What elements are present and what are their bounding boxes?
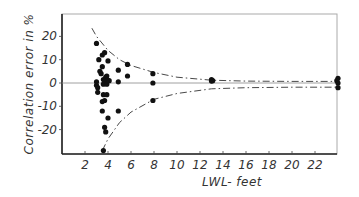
data-point [94, 41, 99, 46]
y-axis-ticks: 20100-10-20 [37, 29, 62, 136]
data-point [116, 79, 121, 84]
data-point [100, 64, 105, 69]
x-tick-label: 4 [104, 158, 112, 172]
y-tick-label: 10 [42, 53, 58, 67]
y-axis-title: Correlation error in % [22, 14, 36, 155]
data-points [94, 41, 341, 153]
y-tick-label: -20 [37, 123, 57, 137]
data-point [96, 57, 101, 62]
data-point [335, 85, 340, 90]
data-point [94, 79, 99, 84]
data-point [100, 108, 105, 113]
data-point [105, 58, 110, 63]
data-point [125, 62, 130, 67]
data-point [150, 71, 155, 76]
x-tick-label: 10 [169, 158, 185, 172]
data-point [104, 92, 109, 97]
data-point [103, 129, 108, 134]
x-tick-label: 22 [307, 158, 322, 172]
error-envelope-curves [92, 28, 338, 150]
data-point [102, 50, 107, 55]
y-tick-label: 20 [42, 29, 58, 43]
y-tick-label: -10 [37, 99, 57, 113]
data-point [116, 108, 121, 113]
data-point [105, 115, 110, 120]
x-tick-label: 12 [192, 158, 207, 172]
x-tick-label: 6 [127, 158, 135, 172]
data-point [107, 78, 112, 83]
x-tick-label: 18 [261, 158, 277, 172]
y-tick-label: 0 [49, 76, 57, 90]
data-point [95, 90, 100, 95]
x-tick-label: 16 [238, 158, 254, 172]
x-tick-label: 14 [215, 158, 230, 172]
data-point [116, 68, 121, 73]
data-point [104, 73, 109, 78]
x-axis-title: LWL- feet [202, 175, 263, 189]
x-tick-label: 2 [81, 158, 89, 172]
data-point [150, 80, 155, 85]
scatter-chart: 246810121416182022 20100-10-20 LWL- feet… [0, 0, 359, 197]
data-point [150, 98, 155, 103]
x-tick-label: 8 [150, 158, 158, 172]
data-point [95, 85, 100, 90]
data-point [101, 148, 106, 153]
data-point [335, 80, 340, 85]
data-point [209, 79, 214, 84]
data-point [125, 73, 130, 78]
data-point [102, 125, 107, 130]
data-point [99, 71, 104, 76]
data-point [102, 98, 107, 103]
x-tick-label: 20 [284, 158, 300, 172]
